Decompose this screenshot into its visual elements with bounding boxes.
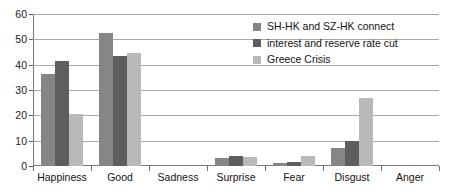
legend-swatch-icon [253, 39, 261, 47]
x-tick-mark [265, 166, 266, 171]
bar [345, 141, 359, 166]
x-tick-label: Anger [396, 172, 424, 184]
legend-swatch-icon [253, 23, 261, 31]
x-tick-label: Disgust [334, 172, 369, 184]
bar [301, 156, 315, 166]
bar-group [91, 14, 149, 166]
legend-label: interest and reserve rate cut [267, 38, 398, 49]
bar [55, 61, 69, 166]
bar [331, 148, 345, 166]
bar [127, 53, 141, 166]
bar [41, 74, 55, 166]
y-tick-label: 20 [1, 110, 27, 121]
bar-group [149, 14, 207, 166]
chart-legend: SH-HK and SZ-HK connectinterest and rese… [253, 20, 398, 66]
x-tick-mark [439, 166, 440, 171]
x-tick-label: Fear [283, 172, 305, 184]
bar [287, 162, 301, 166]
bar-set [33, 14, 91, 166]
x-tick-mark [91, 166, 92, 171]
y-tick-label: 10 [1, 135, 27, 146]
x-tick-mark [207, 166, 208, 171]
bar [69, 114, 83, 166]
x-tick-mark [381, 166, 382, 171]
y-tick-label: 50 [1, 34, 27, 45]
x-tick-label: Happiness [37, 172, 87, 184]
x-tick-label: Good [107, 172, 133, 184]
y-tick-mark [29, 90, 33, 91]
bar [99, 33, 113, 166]
y-tick-label: 30 [1, 85, 27, 96]
y-tick-mark [29, 39, 33, 40]
bar [273, 163, 287, 166]
legend-item: Greece Crisis [253, 53, 398, 66]
bar [229, 156, 243, 166]
x-tick-mark [149, 166, 150, 171]
x-tick-label: Surprise [216, 172, 255, 184]
legend-label: SH-HK and SZ-HK connect [267, 21, 394, 32]
legend-item: SH-HK and SZ-HK connect [253, 20, 398, 33]
y-tick-mark [29, 14, 33, 15]
bar [243, 157, 257, 166]
bar [359, 98, 373, 166]
y-tick-mark [29, 115, 33, 116]
x-tick-mark [323, 166, 324, 171]
y-tick-mark [29, 141, 33, 142]
y-tick-label: 0 [1, 161, 27, 172]
bar-set [91, 14, 149, 166]
x-tick-label: Sadness [158, 172, 199, 184]
y-tick-mark [29, 65, 33, 66]
bar-group [33, 14, 91, 166]
bar-set [149, 14, 207, 166]
x-tick-mark [33, 166, 34, 171]
legend-item: interest and reserve rate cut [253, 37, 398, 50]
legend-label: Greece Crisis [267, 54, 331, 65]
bar [215, 158, 229, 166]
legend-swatch-icon [253, 56, 261, 64]
y-tick-label: 40 [1, 59, 27, 70]
y-tick-label: 60 [1, 9, 27, 20]
bar-chart: 6050403020100 HappinessGoodSadnessSurpri… [0, 0, 450, 196]
bar [113, 56, 127, 166]
